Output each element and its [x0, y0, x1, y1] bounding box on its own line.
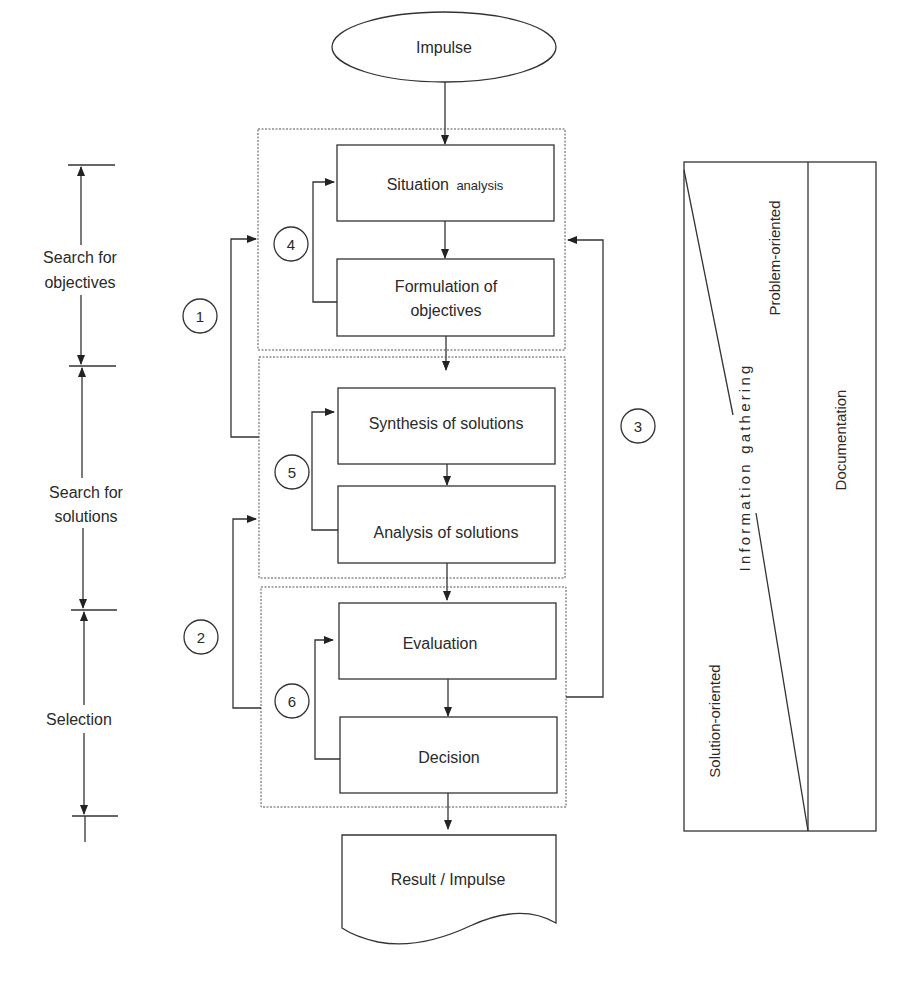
- documentation-label: Documentation: [832, 390, 849, 491]
- start-node: Impulse: [332, 12, 556, 82]
- result-label: Result / Impulse: [391, 871, 506, 888]
- formulation-box: [337, 259, 554, 336]
- information-gathering-label: Information gathering: [736, 363, 753, 572]
- feedback-loop-2-arrow: [233, 519, 261, 708]
- loop-5-arrow: [312, 412, 338, 530]
- loop-4-badge: 4: [274, 227, 308, 261]
- situation-label-sub: analysis: [456, 178, 503, 193]
- loop-4-number: 4: [287, 236, 295, 253]
- step-formulation-of-objectives: Formulation of objectives: [337, 259, 554, 336]
- formulation-line2: objectives: [410, 302, 481, 319]
- feedback-1-number: 1: [196, 308, 204, 325]
- feedback-loop-1-arrow: [231, 239, 259, 437]
- formulation-line1: Formulation of: [395, 278, 498, 295]
- loop-4-arrow: [313, 182, 337, 302]
- loop-6-badge: 6: [275, 684, 309, 718]
- phase-2-line1: Search for: [49, 484, 123, 501]
- evaluation-label: Evaluation: [403, 635, 478, 652]
- loop-6-number: 6: [288, 693, 296, 710]
- phase-2-line2: solutions: [54, 508, 117, 525]
- situation-analysis-label: Situation analysis: [387, 176, 504, 193]
- phase-1-line1: Search for: [43, 249, 117, 266]
- loop-5-number: 5: [288, 464, 296, 481]
- step-situation-analysis: Situation analysis: [337, 145, 554, 221]
- phase-3-label: Selection: [46, 711, 112, 728]
- information-panel: Problem-oriented Solution-oriented Infor…: [684, 162, 876, 831]
- loop-5-badge: 5: [275, 455, 309, 489]
- feedback-3-badge: 3: [621, 409, 655, 443]
- feedback-1-badge: 1: [183, 299, 217, 333]
- situation-label-main: Situation: [387, 176, 449, 193]
- analysis-label: Analysis of solutions: [374, 524, 519, 541]
- loop-6-arrow: [315, 640, 340, 759]
- step-evaluation: Evaluation: [339, 603, 556, 679]
- start-label: Impulse: [416, 39, 472, 56]
- feedback-loop-3-arrow: [566, 240, 603, 697]
- solution-oriented-label: Solution-oriented: [706, 664, 723, 777]
- step-analysis-of-solutions: Analysis of solutions: [338, 486, 555, 563]
- synthesis-label: Synthesis of solutions: [369, 415, 524, 432]
- step-decision: Decision: [340, 717, 557, 793]
- phase-1-line2: objectives: [44, 274, 115, 291]
- feedback-2-number: 2: [197, 629, 205, 646]
- feedback-3-number: 3: [634, 418, 642, 435]
- phase-scale: Search for objectives Search for solutio…: [43, 165, 123, 842]
- feedback-2-badge: 2: [184, 620, 218, 654]
- result-document-shape: [342, 835, 556, 944]
- decision-label: Decision: [418, 749, 479, 766]
- problem-oriented-label: Problem-oriented: [766, 200, 783, 315]
- design-process-diagram: Impulse Situation analysis Formulation o…: [0, 0, 907, 981]
- step-synthesis-of-solutions: Synthesis of solutions: [338, 388, 555, 464]
- end-node: Result / Impulse: [342, 835, 556, 944]
